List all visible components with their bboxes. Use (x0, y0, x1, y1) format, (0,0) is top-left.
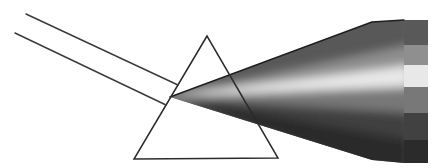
spectrum-stripe-2 (404, 65, 428, 87)
spectrum-band (404, 20, 428, 163)
diagram-canvas (0, 0, 439, 168)
spectrum-stripe-3 (404, 87, 428, 113)
spectrum-stripe-0 (404, 20, 428, 45)
spectrum-stripe-1 (404, 45, 428, 65)
spectrum-stripe-5 (404, 140, 428, 163)
spectrum-stripe-4 (404, 113, 428, 140)
prism-dispersion-diagram (0, 0, 439, 168)
